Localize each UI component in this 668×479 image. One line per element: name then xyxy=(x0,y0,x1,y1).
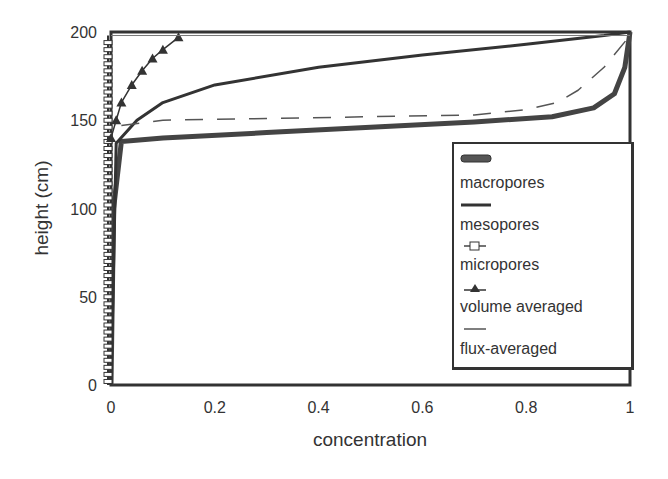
micropores-swatch-icon xyxy=(460,240,500,252)
volume-averaged-swatch-icon xyxy=(460,282,500,294)
x-tick-label: 0.4 xyxy=(307,399,329,416)
x-tick-label: 0.8 xyxy=(515,399,537,416)
x-tick-label: 0 xyxy=(107,399,116,416)
y-tick-label: 50 xyxy=(79,289,97,306)
y-tick-label: 200 xyxy=(70,24,97,41)
legend-item-volume-averaged: volume averaged xyxy=(460,298,583,316)
flux-averaged-swatch-icon xyxy=(460,325,500,333)
x-axis-ticks: 00.20.40.60.81 xyxy=(107,399,635,416)
legend-item-macropores: macropores xyxy=(460,174,544,192)
legend-item-micropores: micropores xyxy=(460,256,539,274)
legend-item-flux-averaged: flux-averaged xyxy=(460,340,557,358)
macropores-swatch-icon xyxy=(460,152,500,166)
y-axis-label: height (cm) xyxy=(31,160,52,255)
x-tick-label: 0.2 xyxy=(204,399,226,416)
series-volume-averaged xyxy=(106,32,183,142)
x-tick-label: 0.6 xyxy=(411,399,433,416)
y-axis-ticks: 050100150200 xyxy=(70,24,97,394)
y-tick-label: 100 xyxy=(70,201,97,218)
series-flux-averaged xyxy=(121,36,630,126)
y-tick-label: 150 xyxy=(70,112,97,129)
y-tick-label: 0 xyxy=(88,377,97,394)
x-axis-label: concentration xyxy=(313,429,427,450)
legend: macropores mesopores micropores volume a… xyxy=(452,142,634,370)
x-tick-label: 1 xyxy=(626,399,635,416)
legend-item-mesopores: mesopores xyxy=(460,216,539,234)
mesopores-swatch-icon xyxy=(460,200,500,210)
